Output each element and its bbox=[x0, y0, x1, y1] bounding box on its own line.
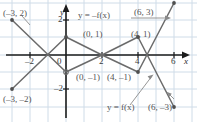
point-label-0-neg1: (0, –1) bbox=[76, 73, 100, 82]
point-label-4-neg1: (4, –1) bbox=[107, 73, 131, 82]
y-axis bbox=[63, 4, 70, 118]
y-tick-neg2: –2 bbox=[54, 84, 63, 93]
point-label-6-neg3: (6, –3) bbox=[148, 103, 172, 112]
y-tick-2: 2 bbox=[58, 15, 63, 24]
x-tick-neg2: –2 bbox=[25, 57, 34, 66]
graph-figure: y x 2 –2 –2 0 2 4 6 y = –f(x) y = f(x) (… bbox=[0, 0, 197, 122]
x-tick-2: 2 bbox=[99, 57, 104, 66]
point-label-6-3: (6, 3) bbox=[134, 8, 154, 17]
x-tick-0: 0 bbox=[57, 57, 62, 66]
annotation-negative-f: y = –f(x) bbox=[78, 11, 110, 20]
point-label-neg3-neg2: (–3, –2) bbox=[3, 95, 32, 104]
x-axis-label: x bbox=[184, 57, 188, 66]
x-tick-6: 6 bbox=[171, 57, 176, 66]
point-label-neg3-2: (–3, 2) bbox=[3, 9, 27, 18]
x-tick-4: 4 bbox=[135, 57, 140, 66]
point-label-4-1: (4, 1) bbox=[131, 30, 151, 39]
point-label-0-1: (0, 1) bbox=[83, 30, 103, 39]
annotation-positive-f: y = f(x) bbox=[107, 103, 135, 112]
